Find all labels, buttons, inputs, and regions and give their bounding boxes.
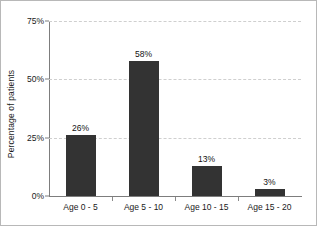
y-axis-tick-label: 0% xyxy=(18,191,44,201)
y-axis-tick-mark xyxy=(45,196,49,197)
x-axis-tick-mark xyxy=(112,197,113,201)
x-axis-tick-label: Age 5 - 10 xyxy=(112,202,175,212)
x-axis-tick-labels: Age 0 - 5Age 5 - 10Age 10 - 15Age 15 - 2… xyxy=(49,202,301,212)
y-axis-tick-label: 75% xyxy=(18,16,44,26)
bar-value-label: 58% xyxy=(135,49,152,59)
bar-slot: 58% xyxy=(112,21,175,196)
x-axis-tick-label: Age 0 - 5 xyxy=(49,202,112,212)
y-axis-tick-label: 25% xyxy=(18,133,44,143)
y-axis-tick-label: 50% xyxy=(18,74,44,84)
bar-value-label: 13% xyxy=(198,154,215,164)
y-axis-tick-mark xyxy=(45,21,49,22)
bar[interactable] xyxy=(255,189,285,196)
y-axis-tick-mark xyxy=(45,137,49,138)
x-axis-tick-label: Age 15 - 20 xyxy=(238,202,301,212)
bar-value-label: 26% xyxy=(72,123,89,133)
bar[interactable] xyxy=(129,61,159,196)
bar-chart: Percentage of patients 0%25%50%75% 26%58… xyxy=(0,0,317,226)
bar-slot: 26% xyxy=(49,21,112,196)
x-axis-tick-mark xyxy=(238,197,239,201)
x-axis-tick-mark xyxy=(175,197,176,201)
bar[interactable] xyxy=(192,166,222,196)
y-axis-title: Percentage of patients xyxy=(3,1,19,226)
bar-series: 26%58%13%3% xyxy=(49,21,301,196)
x-axis-tick-label: Age 10 - 15 xyxy=(175,202,238,212)
bar[interactable] xyxy=(66,135,96,196)
y-axis-tick-labels: 0%25%50%75% xyxy=(18,1,44,226)
y-axis-tick-mark xyxy=(45,79,49,80)
bar-value-label: 3% xyxy=(263,177,275,187)
plot-area: 26%58%13%3% xyxy=(49,21,301,196)
bar-slot: 13% xyxy=(175,21,238,196)
bar-slot: 3% xyxy=(238,21,301,196)
